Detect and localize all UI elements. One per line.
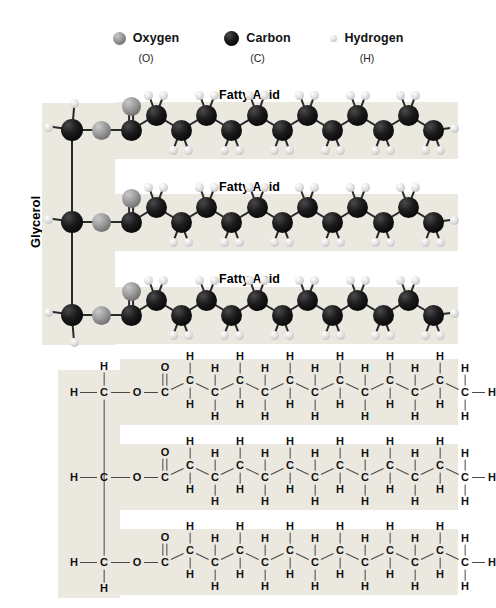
- chain-carbon: C: [186, 459, 194, 471]
- chain-hydrogen: H: [461, 410, 469, 422]
- chain-carbon: C: [236, 459, 244, 471]
- chain-hydrogen: H: [311, 580, 319, 592]
- chain-hydrogen: H: [286, 483, 294, 495]
- chain-hydrogen: H: [411, 495, 419, 507]
- chain-hydrogen: H: [311, 447, 319, 459]
- chain-h-line: [264, 545, 265, 556]
- glycerol-h-line: [80, 477, 97, 478]
- chain-h-line: [464, 400, 465, 411]
- terminal-hydrogen: H: [488, 386, 496, 398]
- carbonyl-double-line: [166, 459, 167, 471]
- chain-hydrogen: H: [411, 410, 419, 422]
- chain-hydrogen: H: [361, 410, 369, 422]
- chain-h-line: [189, 448, 190, 459]
- chain-hydrogen: H: [436, 483, 444, 495]
- chain-h-line: [314, 570, 315, 581]
- chain-h-line: [389, 533, 390, 544]
- chain-h-line: [364, 375, 365, 386]
- chain-hydrogen: H: [336, 435, 344, 447]
- chain-h-line: [314, 460, 315, 471]
- chain-hydrogen: H: [211, 495, 219, 507]
- chain-h-line: [414, 460, 415, 471]
- chain-carbon: C: [261, 556, 269, 568]
- glycerol-vertical-hydrogen: H: [100, 360, 108, 372]
- chain-h-line: [364, 400, 365, 411]
- chain-h-line: [389, 558, 390, 569]
- chain-hydrogen: H: [461, 362, 469, 374]
- glycerol-vh-line: [103, 570, 104, 583]
- chain-hydrogen: H: [286, 398, 294, 410]
- chain-h-line: [339, 473, 340, 484]
- glycerol-carbon: C: [100, 556, 108, 568]
- chain-h-line: [389, 473, 390, 484]
- chain-hydrogen: H: [186, 435, 194, 447]
- carbonyl-oxygen: O: [161, 446, 170, 458]
- chain-carbon: C: [311, 556, 319, 568]
- ester-chain-line: [144, 477, 158, 478]
- chain-h-line: [264, 485, 265, 496]
- chain-h-line: [339, 448, 340, 459]
- chain-hydrogen: H: [461, 495, 469, 507]
- chain-h-line: [239, 533, 240, 544]
- glycerol-left-hydrogen: H: [70, 386, 78, 398]
- carbonyl-carbon: C: [161, 471, 169, 483]
- chain-h-line: [189, 533, 190, 544]
- chain-h-line: [314, 545, 315, 556]
- chain-hydrogen: H: [286, 568, 294, 580]
- chain-hydrogen: H: [236, 398, 244, 410]
- chain-carbon: C: [311, 386, 319, 398]
- ester-oxygen: O: [133, 471, 142, 483]
- carbonyl-carbon: C: [161, 386, 169, 398]
- chain-h-line: [239, 558, 240, 569]
- glycerol-carbon: C: [100, 471, 108, 483]
- glycerol-h-line: [80, 392, 97, 393]
- chain-hydrogen: H: [186, 520, 194, 532]
- ester-oxygen: O: [133, 386, 142, 398]
- chain-h-line: [464, 375, 465, 386]
- chain-hydrogen: H: [311, 362, 319, 374]
- chain-hydrogen: H: [311, 410, 319, 422]
- chain-h-line: [414, 545, 415, 556]
- chain-carbon: C: [411, 386, 419, 398]
- chain-hydrogen: H: [436, 435, 444, 447]
- chain-carbon: C: [286, 374, 294, 386]
- chain-carbon: C: [436, 544, 444, 556]
- chain-hydrogen: H: [386, 483, 394, 495]
- chain-hydrogen: H: [386, 520, 394, 532]
- glycerol-vertical-hydrogen: H: [100, 582, 108, 594]
- chain-hydrogen: H: [336, 398, 344, 410]
- chain-h-line: [289, 363, 290, 374]
- chain-h-line: [439, 558, 440, 569]
- chain-h-line: [389, 388, 390, 399]
- chain-h-line: [239, 448, 240, 459]
- chain-hydrogen: H: [386, 568, 394, 580]
- chain-h-line: [214, 570, 215, 581]
- chain-h-line: [264, 400, 265, 411]
- chain-hydrogen: H: [211, 447, 219, 459]
- chain-h-line: [414, 485, 415, 496]
- chain-hydrogen: H: [436, 398, 444, 410]
- chain-h-line: [289, 448, 290, 459]
- chain-h-line: [214, 400, 215, 411]
- chain-hydrogen: H: [386, 350, 394, 362]
- carbonyl-oxygen: O: [161, 531, 170, 543]
- chain-hydrogen: H: [261, 362, 269, 374]
- chain-hydrogen: H: [261, 447, 269, 459]
- chain-h-line: [364, 570, 365, 581]
- chain-hydrogen: H: [236, 435, 244, 447]
- chain-hydrogen: H: [386, 435, 394, 447]
- chain-hydrogen: H: [211, 580, 219, 592]
- chain-hydrogen: H: [361, 447, 369, 459]
- chain-hydrogen: H: [286, 520, 294, 532]
- chain-h-line: [464, 460, 465, 471]
- chain-hydrogen: H: [286, 435, 294, 447]
- terminal-hydrogen: H: [488, 471, 496, 483]
- chain-carbon: C: [261, 471, 269, 483]
- chain-h-line: [239, 388, 240, 399]
- chain-hydrogen: H: [211, 410, 219, 422]
- chain-h-line: [214, 545, 215, 556]
- chain-h-line: [264, 460, 265, 471]
- chain-hydrogen: H: [361, 362, 369, 374]
